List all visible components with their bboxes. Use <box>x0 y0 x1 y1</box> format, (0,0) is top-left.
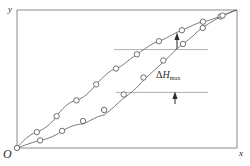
data-point-marker <box>37 138 42 143</box>
origin-marker <box>14 145 19 150</box>
data-point-marker <box>121 92 126 97</box>
delta-h-max-text: ΔHmax <box>156 69 181 81</box>
data-point-marker <box>180 41 185 46</box>
data-point-marker <box>80 118 85 123</box>
data-point-marker <box>101 107 106 112</box>
y-axis-label: y <box>7 4 12 14</box>
origin-label: O <box>3 147 12 161</box>
lower-branch-curve <box>17 10 237 148</box>
upper-branch-markers <box>34 14 223 135</box>
data-point-marker <box>200 19 205 24</box>
lower-arrow <box>172 92 177 105</box>
data-point-marker <box>156 39 161 44</box>
data-point-marker <box>54 114 59 119</box>
data-point-marker <box>74 98 79 103</box>
max-subscript: max <box>170 74 182 81</box>
data-point-marker <box>141 75 146 80</box>
x-axis-label: x <box>238 148 243 158</box>
data-point-marker <box>113 66 118 71</box>
hysteresis-curve-figure: ΔHmax y x O <box>0 0 250 166</box>
data-point-marker <box>161 58 166 63</box>
data-point-marker <box>179 28 184 33</box>
delta-h-max-annotation: ΔHmax <box>156 69 181 81</box>
data-point-marker <box>34 129 39 134</box>
upper-arrow <box>174 33 179 50</box>
data-point-marker <box>220 13 225 18</box>
chart-svg: ΔHmax y x O <box>0 0 250 166</box>
data-point-marker <box>134 52 139 57</box>
data-point-marker <box>200 25 205 30</box>
data-point-marker <box>94 82 99 87</box>
data-point-marker <box>59 128 64 133</box>
